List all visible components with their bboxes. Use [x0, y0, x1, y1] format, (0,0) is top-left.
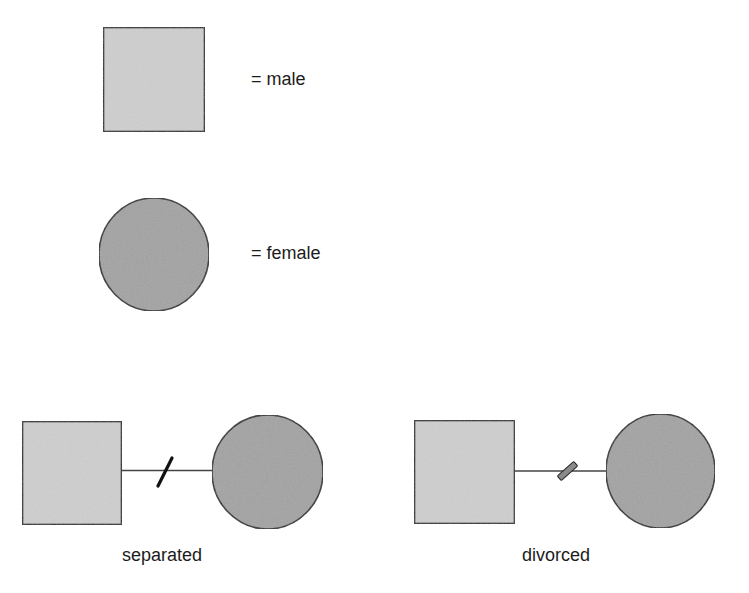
divorced-female-symbol — [606, 414, 715, 528]
legend-male-label: = male — [251, 69, 306, 89]
legend-female-label: = female — [251, 243, 321, 263]
genogram-diagram — [0, 0, 749, 593]
legend-male-symbol — [104, 28, 205, 132]
divorced-label: divorced — [522, 545, 590, 565]
separated-slash-mark — [158, 458, 172, 486]
separated-female-symbol — [212, 415, 323, 529]
separated-couple — [23, 415, 324, 529]
legend-female-symbol — [99, 198, 209, 311]
divorced-male-symbol — [415, 421, 515, 524]
separated-label: separated — [122, 545, 202, 565]
divorced-couple — [415, 414, 716, 528]
separated-male-symbol — [23, 422, 122, 525]
